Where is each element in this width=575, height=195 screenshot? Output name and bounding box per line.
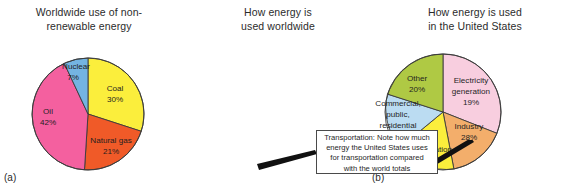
pie-a-label-coal-pct: 30% [107,95,123,104]
pie-a-label-oil-pct: 42% [40,118,56,127]
annotation-line-3: for transportation compared [319,153,435,163]
pie-a-label-nuclear-pct: 7% [67,73,79,82]
pie-a-label-nuclear-name: Nuclear [62,62,90,71]
panel-a-title: Worldwide use of non- renewable energy [0,6,184,33]
pie-a-label-oil-name: Oil [43,107,53,116]
panel-c-title: How energy is used in the United States [385,6,565,33]
annotation-line-1: Transportation: Note how much [319,133,435,143]
transportation-annotation-box: Transportation: Note how much energy the… [316,130,438,174]
panel-a-worldwide-nonrenewable: Worldwide use of non- renewable energy C… [0,0,190,195]
annotation-line-2: energy the United States uses [319,143,435,153]
pie-a-label-gas-pct: 21% [103,147,119,156]
pie-a-label-gas-name: Natural gas [90,136,131,145]
annotation-line-4: with the world totals [319,164,435,174]
panel-a-letter: (a) [4,172,16,183]
figure-energy-pie-charts: Worldwide use of non- renewable energy C… [0,0,575,195]
pie-a-label-coal-name: Coal [107,84,124,93]
panel-b-title: How energy is used worldwide [183,6,373,33]
pie-chart-a: Coal 30% Natural gas 21% Oil 42% Nuclear… [18,44,158,184]
